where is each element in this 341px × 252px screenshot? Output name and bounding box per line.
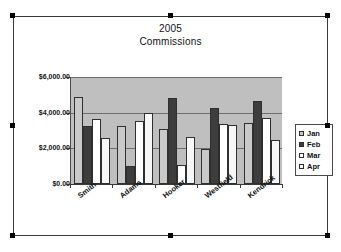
bar[interactable] [244, 123, 253, 184]
selection-handle[interactable] [168, 233, 173, 238]
selection-handle[interactable] [168, 13, 173, 18]
x-axis-tick-mark [282, 184, 283, 188]
bar[interactable] [117, 126, 126, 184]
chart-title-line-1: 2005 [159, 23, 182, 34]
legend-item-label: Jan [307, 129, 320, 138]
bar-group [198, 77, 240, 184]
y-axis-tick-label: $2,000.00 [22, 144, 70, 151]
legend-swatch-icon [299, 142, 304, 147]
bar-group [71, 77, 113, 184]
x-axis-tick-mark [112, 184, 113, 188]
legend-swatch-icon [299, 131, 304, 136]
bar[interactable] [186, 137, 195, 184]
legend-item[interactable]: Mar [299, 150, 329, 161]
selection-handle[interactable] [10, 123, 15, 128]
bar-group [156, 77, 198, 184]
legend-item[interactable]: Jan [299, 128, 329, 139]
bar[interactable] [253, 101, 262, 184]
bars-layer [71, 77, 282, 184]
legend-swatch-icon [299, 164, 304, 169]
bar[interactable] [201, 149, 210, 184]
selection-handle[interactable] [325, 233, 330, 238]
legend-item-label: Mar [307, 151, 320, 160]
y-axis-tick-label: $4,000.00 [22, 109, 70, 116]
x-axis-tick-mark [240, 184, 241, 188]
bar[interactable] [83, 126, 92, 184]
bar[interactable] [210, 108, 219, 184]
x-axis-tick-mark [197, 184, 198, 188]
y-axis-tick-label: $6,000.00 [22, 73, 70, 80]
chart-object[interactable]: 2005 Commissions $0.00$2,000.00$4,000.00… [0, 0, 341, 252]
selection-handle[interactable] [10, 13, 15, 18]
bar-group [113, 77, 155, 184]
legend-item-label: Feb [307, 140, 320, 149]
chart-legend[interactable]: JanFebMarApr [295, 124, 333, 176]
y-axis: $0.00$2,000.00$4,000.00$6,000.00 [14, 17, 70, 252]
chart-frame[interactable]: 2005 Commissions $0.00$2,000.00$4,000.00… [13, 16, 328, 236]
legend-item[interactable]: Apr [299, 161, 329, 172]
x-axis-tick-mark [70, 184, 71, 188]
bar-group [241, 77, 283, 184]
bar[interactable] [101, 138, 110, 184]
bar[interactable] [168, 98, 177, 184]
bar[interactable] [135, 121, 144, 184]
bar[interactable] [144, 113, 153, 184]
legend-item[interactable]: Feb [299, 139, 329, 150]
selection-handle[interactable] [325, 13, 330, 18]
legend-swatch-icon [299, 153, 304, 158]
bar[interactable] [159, 129, 168, 184]
selection-handle[interactable] [10, 233, 15, 238]
selection-handle[interactable] [325, 123, 330, 128]
x-axis-tick-mark [155, 184, 156, 188]
bar[interactable] [74, 97, 83, 184]
legend-item-label: Apr [307, 162, 320, 171]
y-axis-tick-label: $0.00 [22, 180, 70, 187]
bar[interactable] [92, 119, 101, 184]
